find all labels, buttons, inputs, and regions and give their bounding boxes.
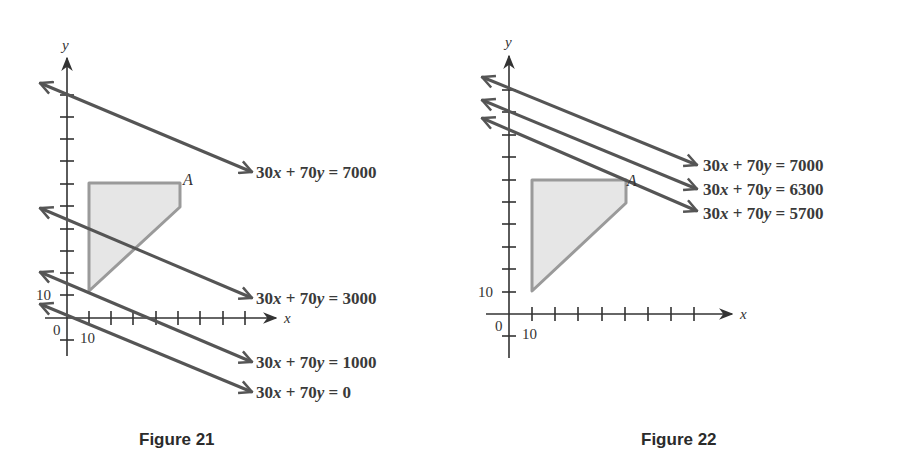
figures-canvas: y x 0 10 10 A 30x + 70y = 7000 30x + 70y… (0, 0, 907, 456)
x-axis-label: x (283, 310, 291, 326)
iso-line-6300-label: 30x + 70y = 6300 (703, 180, 823, 199)
y-tick-label: 10 (478, 284, 493, 300)
feasible-region (89, 183, 180, 291)
iso-line-6300 (482, 100, 697, 189)
y-axis-label: y (503, 34, 512, 50)
x-axis-label: x (739, 306, 747, 322)
vertex-a-label: A (182, 171, 193, 188)
x-tick-label: 10 (522, 326, 537, 342)
origin-label: 0 (53, 322, 61, 338)
figure-22-caption: Figure 22 (641, 430, 717, 450)
origin-label: 0 (495, 318, 503, 334)
feasible-region (532, 180, 626, 291)
iso-line-7000 (482, 77, 697, 165)
iso-line-7000-label: 30x + 70y = 7000 (703, 156, 823, 175)
iso-line-7000 (40, 83, 252, 172)
figure-22: y x 0 10 10 A 30x + 70y = 7000 30x + 70y… (478, 34, 823, 358)
y-axis-label: y (60, 37, 69, 53)
iso-line-0-label: 30x + 70y = 0 (256, 383, 351, 402)
figure-21: y x 0 10 10 A 30x + 70y = 7000 30x + 70y… (36, 37, 376, 402)
x-tick-label: 10 (80, 330, 95, 346)
iso-line-7000-label: 30x + 70y = 7000 (256, 163, 376, 182)
y-tick-label: 10 (36, 287, 51, 303)
vertex-a-label: A (626, 172, 637, 189)
iso-line-3000-label: 30x + 70y = 3000 (256, 289, 376, 308)
iso-line-1000-label: 30x + 70y = 1000 (256, 353, 376, 372)
iso-line-5700-label: 30x + 70y = 5700 (703, 204, 823, 223)
figure-21-caption: Figure 21 (139, 430, 215, 450)
